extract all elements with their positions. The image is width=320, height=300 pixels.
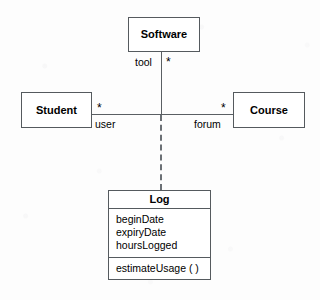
log-operations-compartment: estimateUsage ( ) (109, 258, 210, 279)
log-name-compartment: Log (109, 191, 210, 209)
multiplicity-course-end: * (221, 102, 226, 114)
log-attribute-begin-date: beginDate (116, 213, 203, 226)
class-box-course[interactable]: Course (233, 92, 305, 128)
class-box-software[interactable]: Software (128, 17, 200, 52)
role-label-forum: forum (194, 119, 221, 130)
multiplicity-software-end: * (166, 56, 171, 68)
class-name-student: Student (36, 105, 77, 116)
uml-diagram-canvas: Software Student Course Log beginDate ex… (0, 0, 320, 300)
log-attributes-compartment: beginDate expiryDate hoursLogged (109, 209, 210, 258)
log-attribute-hours-logged: hoursLogged (116, 239, 203, 252)
class-name-course: Course (250, 105, 288, 116)
association-line-student-course (92, 114, 233, 116)
multiplicity-student-end: * (97, 102, 102, 114)
log-operation-estimate-usage: estimateUsage ( ) (116, 262, 203, 275)
role-label-user: user (95, 119, 115, 130)
role-label-tool: tool (135, 57, 152, 68)
association-line-software (161, 52, 163, 115)
log-attribute-expiry-date: expiryDate (116, 226, 203, 239)
class-name-software: Software (141, 29, 187, 40)
class-name-log: Log (149, 194, 169, 205)
association-class-dashed-link (160, 115, 162, 190)
class-box-log[interactable]: Log beginDate expiryDate hoursLogged est… (108, 190, 211, 280)
class-box-student[interactable]: Student (21, 92, 92, 128)
